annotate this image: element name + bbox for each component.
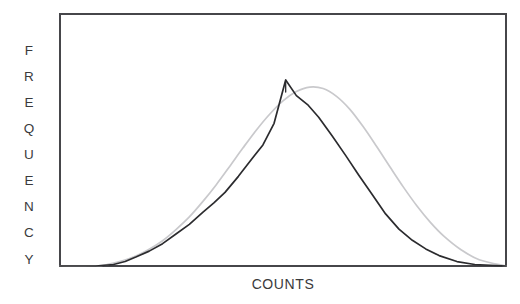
figure-canvas: F R E Q U E N C Y COUNTS bbox=[0, 0, 520, 304]
plot-svg bbox=[0, 0, 520, 304]
plot-area bbox=[0, 0, 520, 304]
plot-frame bbox=[60, 14, 506, 266]
series-fitted-gaussian bbox=[60, 87, 506, 266]
series-measured-distribution bbox=[60, 80, 506, 266]
